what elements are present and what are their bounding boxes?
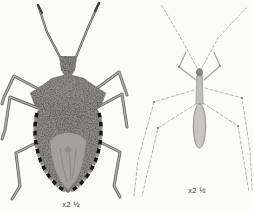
figure-shield-bug	[0, 0, 130, 214]
illustration-plate: x2 ½ x2 ½	[0, 0, 254, 214]
thread-bug-head	[197, 69, 203, 77]
shield-bug-antennae	[38, 3, 99, 57]
thread-legged-bug-illustration	[130, 0, 254, 214]
shield-bug-pronotum	[30, 74, 106, 111]
thread-bug-antennae	[161, 4, 246, 68]
thread-bug-abdomen	[193, 104, 205, 148]
thread-bug-middle-legs	[134, 88, 252, 196]
thread-bug-thorax	[196, 76, 203, 104]
caption-thread-bug-scale: x2 ½	[175, 186, 219, 195]
shield-bug-illustration	[0, 0, 130, 214]
caption-shield-bug-scale: x2 ½	[49, 200, 93, 209]
figure-thread-legged-bug	[130, 0, 254, 214]
